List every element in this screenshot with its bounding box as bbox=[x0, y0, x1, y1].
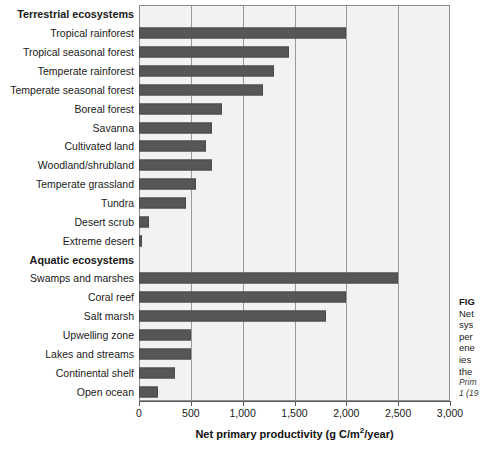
bar-temperate-seasonal-forest bbox=[139, 84, 263, 95]
bar-row: Temperate seasonal forest bbox=[0, 80, 492, 99]
caption-line-7: the bbox=[459, 366, 492, 378]
bar-row: Continental shelf bbox=[0, 363, 492, 382]
category-label-woodland-shrubland: Woodland/shrubland bbox=[38, 159, 134, 171]
category-label-swamps-and-marshes: Swamps and marshes bbox=[30, 272, 134, 284]
category-label-coral-reef: Coral reef bbox=[88, 291, 134, 303]
category-label-boreal-forest: Boreal forest bbox=[74, 103, 134, 115]
group-header-row: Aquatic ecosystems bbox=[0, 250, 492, 269]
category-label-upwelling-zone: Upwelling zone bbox=[63, 329, 134, 341]
x-axis-title-superscript: 2 bbox=[360, 426, 364, 435]
bar-temperate-grassland bbox=[139, 179, 196, 190]
bar-open-ocean bbox=[139, 386, 158, 397]
bar-row: Open ocean bbox=[0, 382, 492, 401]
caption-line-6: ies bbox=[459, 354, 492, 366]
bar-row: Tropical seasonal forest bbox=[0, 43, 492, 62]
x-tick-mark-3000 bbox=[450, 401, 451, 406]
bar-lakes-and-streams bbox=[139, 348, 191, 359]
bar-row: Upwelling zone bbox=[0, 326, 492, 345]
bar-row: Boreal forest bbox=[0, 99, 492, 118]
category-label-open-ocean: Open ocean bbox=[77, 386, 134, 398]
caption-line-2: Net bbox=[459, 308, 492, 320]
caption-source-line-2: 1 (19 bbox=[459, 388, 492, 399]
bar-swamps-and-marshes bbox=[139, 273, 398, 284]
x-tick-mark-2000 bbox=[346, 401, 347, 406]
category-label-cultivated-land: Cultivated land bbox=[65, 140, 134, 152]
bar-row: Temperate grassland bbox=[0, 175, 492, 194]
figure-net-primary-productivity: Terrestrial ecosystemsTropical rainfores… bbox=[0, 0, 492, 450]
x-tick-label-0: 0 bbox=[136, 407, 142, 419]
bar-cultivated-land bbox=[139, 141, 206, 152]
bar-upwelling-zone bbox=[139, 329, 191, 340]
x-tick-mark-1500 bbox=[295, 401, 296, 406]
category-label-desert-scrub: Desert scrub bbox=[74, 216, 134, 228]
bar-row: Desert scrub bbox=[0, 212, 492, 231]
group-label-aquatic-ecosystems: Aquatic ecosystems bbox=[30, 254, 134, 266]
bar-tropical-rainforest bbox=[139, 28, 346, 39]
bar-tundra bbox=[139, 197, 186, 208]
category-label-tropical-rainforest: Tropical rainforest bbox=[50, 27, 134, 39]
bar-rows: Terrestrial ecosystemsTropical rainfores… bbox=[0, 5, 492, 401]
bar-coral-reef bbox=[139, 292, 346, 303]
caption-line-3: sys bbox=[459, 319, 492, 331]
bar-row: Tundra bbox=[0, 194, 492, 213]
bar-tropical-seasonal-forest bbox=[139, 47, 289, 58]
x-axis-title: Net primary productivity (g C/m2/year) bbox=[139, 428, 450, 440]
category-label-temperate-rainforest: Temperate rainforest bbox=[38, 65, 134, 77]
category-label-tundra: Tundra bbox=[101, 197, 134, 209]
bar-row: Woodland/shrubland bbox=[0, 156, 492, 175]
bar-row: Salt marsh bbox=[0, 307, 492, 326]
caption-source-line-1: Prim bbox=[459, 377, 492, 388]
category-label-extreme-desert: Extreme desert bbox=[63, 235, 134, 247]
bar-row: Savanna bbox=[0, 118, 492, 137]
category-label-salt-marsh: Salt marsh bbox=[84, 310, 134, 322]
category-label-savanna: Savanna bbox=[93, 122, 134, 134]
bar-salt-marsh bbox=[139, 311, 326, 322]
bar-temperate-rainforest bbox=[139, 65, 274, 76]
caption-line-5: ene bbox=[459, 342, 492, 354]
bar-row: Temperate rainforest bbox=[0, 62, 492, 81]
category-label-continental-shelf: Continental shelf bbox=[56, 367, 134, 379]
bar-continental-shelf bbox=[139, 367, 175, 378]
x-tick-label-1000: 1,000 bbox=[230, 407, 256, 419]
category-label-temperate-grassland: Temperate grassland bbox=[36, 178, 134, 190]
bar-row: Extreme desert bbox=[0, 231, 492, 250]
x-tick-label-3000: 3,000 bbox=[437, 407, 463, 419]
bar-extreme-desert bbox=[139, 235, 142, 246]
category-label-lakes-and-streams: Lakes and streams bbox=[45, 348, 134, 360]
bar-boreal-forest bbox=[139, 103, 222, 114]
x-tick-label-2500: 2,500 bbox=[385, 407, 411, 419]
x-tick-mark-0 bbox=[139, 401, 140, 406]
x-tick-label-1500: 1,500 bbox=[281, 407, 307, 419]
group-header-row: Terrestrial ecosystems bbox=[0, 5, 492, 24]
bar-row: Tropical rainforest bbox=[0, 24, 492, 43]
bar-row: Cultivated land bbox=[0, 137, 492, 156]
category-label-tropical-seasonal-forest: Tropical seasonal forest bbox=[23, 46, 134, 58]
bar-row: Swamps and marshes bbox=[0, 269, 492, 288]
category-label-temperate-seasonal-forest: Temperate seasonal forest bbox=[10, 84, 134, 96]
bar-woodland-shrubland bbox=[139, 160, 212, 171]
caption-line-1: FIG bbox=[459, 296, 492, 308]
x-tick-mark-500 bbox=[191, 401, 192, 406]
x-tick-mark-1000 bbox=[243, 401, 244, 406]
caption-line-4: per bbox=[459, 331, 492, 343]
bar-savanna bbox=[139, 122, 212, 133]
bar-desert-scrub bbox=[139, 216, 149, 227]
bar-row: Coral reef bbox=[0, 288, 492, 307]
figure-caption: FIGNetsyspereneiesthePrim1 (19 bbox=[459, 296, 492, 398]
x-tick-label-2000: 2,000 bbox=[333, 407, 359, 419]
x-tick-label-500: 500 bbox=[182, 407, 200, 419]
x-tick-mark-2500 bbox=[398, 401, 399, 406]
group-label-terrestrial-ecosystems: Terrestrial ecosystems bbox=[17, 8, 134, 20]
bar-row: Lakes and streams bbox=[0, 344, 492, 363]
